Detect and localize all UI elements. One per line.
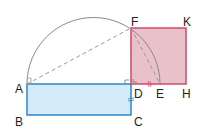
label-e: E — [156, 87, 164, 101]
dashed-line-af — [27, 28, 131, 84]
label-k: K — [183, 15, 191, 29]
label-d: D — [134, 87, 143, 101]
rectangle-abcd — [27, 84, 131, 115]
label-c: C — [134, 115, 143, 129]
label-f: F — [131, 15, 138, 29]
label-b: B — [15, 115, 23, 129]
label-h: H — [182, 87, 191, 101]
label-a: A — [15, 82, 23, 96]
geometry-diagram: A B C D E H F K — [0, 0, 198, 134]
